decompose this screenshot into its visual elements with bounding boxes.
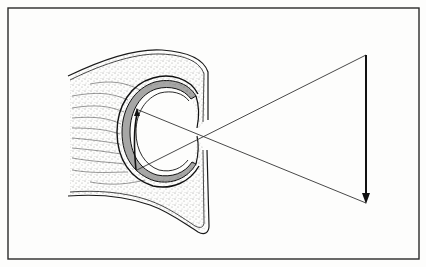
diagram-page: Line drawing of an eye (cross-section wi… bbox=[0, 0, 426, 267]
object-arrow bbox=[362, 55, 370, 204]
eye-optics-diagram bbox=[0, 0, 426, 267]
figure-frame bbox=[8, 8, 419, 259]
eye-tissue bbox=[68, 50, 209, 234]
